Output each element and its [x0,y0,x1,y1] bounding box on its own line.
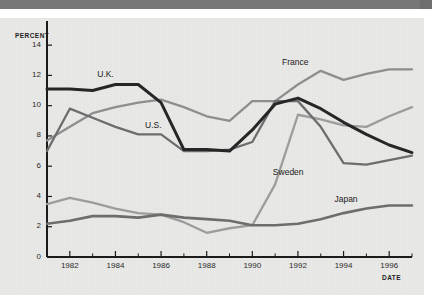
series-label-uk: U.K. [97,69,114,79]
x-axis-title: DATE [382,274,401,281]
x-tick-label: 1984 [97,261,133,270]
y-tick-label: 0 [25,252,41,261]
x-tick-label: 1996 [371,261,407,270]
series-label-us: U.S. [145,120,162,130]
x-tick-label: 1990 [234,261,270,270]
line-chart-plot [0,0,432,295]
x-tick-label: 1986 [143,261,179,270]
y-axis-title: PERCENT [15,32,49,39]
chart-screenshot: PERCENT DATE 02468101214 198219841986198… [0,0,432,295]
y-tick-label: 14 [25,40,41,49]
series-line-uk [47,84,412,152]
series-label-sweden: Sweden [273,167,304,177]
series-line-sweden [47,107,412,233]
series-line-japan [47,206,412,226]
x-tick-label: 1988 [189,261,225,270]
x-tick-label: 1992 [280,261,316,270]
series-label-france: France [282,57,308,67]
x-tick-label: 1994 [326,261,362,270]
y-tick-label: 2 [25,221,41,230]
y-tick-label: 10 [25,100,41,109]
y-tick-label: 6 [25,161,41,170]
x-tick-label: 1982 [52,261,88,270]
chart-svg [0,0,432,295]
y-tick-label: 8 [25,130,41,139]
series-label-japan: Japan [334,194,357,204]
y-tick-label: 12 [25,70,41,79]
y-tick-label: 4 [25,191,41,200]
